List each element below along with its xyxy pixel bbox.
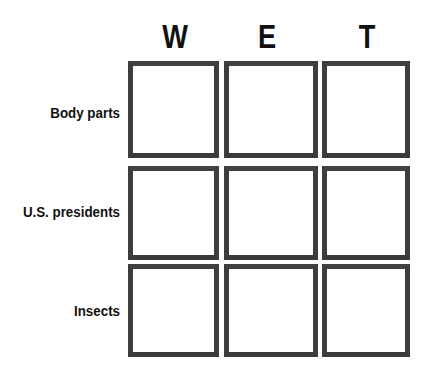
grid-cell-us-presidents-t[interactable] <box>322 166 410 260</box>
grid-cell-insects-t[interactable] <box>322 264 410 357</box>
grid-cell-insects-w[interactable] <box>128 264 219 357</box>
grid-cell-us-presidents-w[interactable] <box>128 166 219 260</box>
grid-cell-body-parts-e[interactable] <box>224 61 318 158</box>
row-label-insects: Insects <box>10 299 120 323</box>
grid-cell-body-parts-w[interactable] <box>128 61 219 158</box>
column-header-t: T <box>331 16 403 56</box>
row-label-body-parts: Body parts <box>10 101 120 125</box>
category-grid-board: W E T Body parts U.S. presidents Insects <box>0 0 436 373</box>
column-header-w: W <box>139 16 211 56</box>
grid-cell-us-presidents-e[interactable] <box>224 166 318 260</box>
row-label-us-presidents: U.S. presidents <box>10 200 120 224</box>
column-header-e: E <box>231 16 303 56</box>
grid-cell-insects-e[interactable] <box>224 264 318 357</box>
grid-cell-body-parts-t[interactable] <box>322 61 410 158</box>
